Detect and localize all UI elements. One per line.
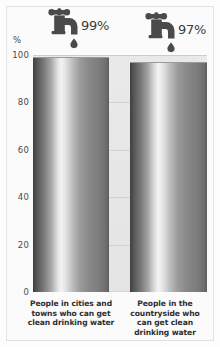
y-tick-label-20: 20 bbox=[18, 240, 29, 250]
annotation-group-cities: 99% bbox=[48, 8, 109, 50]
bar-cities-and-towns bbox=[33, 57, 109, 292]
y-tick-label-60: 60 bbox=[18, 145, 29, 155]
category-label-cities: People in cities and towns who can get c… bbox=[26, 299, 116, 328]
y-tick-label-80: 80 bbox=[18, 97, 29, 107]
y-tick-label-40: 40 bbox=[18, 192, 29, 202]
tap-icon bbox=[145, 12, 177, 54]
tap-icon bbox=[48, 8, 80, 50]
bar-countryside bbox=[130, 62, 207, 292]
value-label-cities: 99% bbox=[81, 18, 109, 33]
gridline-100 bbox=[33, 55, 207, 56]
category-label-countryside: People in the countryside who can get cl… bbox=[124, 299, 206, 337]
y-tick-label-0: 0 bbox=[23, 287, 29, 297]
y-axis-unit-label: % bbox=[13, 35, 21, 45]
value-label-countryside: 97% bbox=[178, 22, 206, 37]
annotation-group-countryside: 97% bbox=[145, 12, 206, 54]
y-tick-label-100: 100 bbox=[12, 50, 29, 60]
chart-figure: % 100 80 60 40 20 0 bbox=[0, 0, 220, 347]
plot-area: 100 80 60 40 20 0 bbox=[33, 55, 207, 292]
